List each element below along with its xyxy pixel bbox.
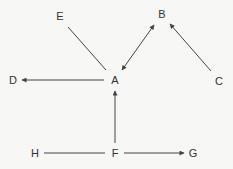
node-f: F	[112, 148, 119, 159]
edges-layer	[22, 24, 211, 153]
node-g: G	[189, 148, 198, 159]
edge-c-b	[170, 24, 211, 71]
node-e: E	[56, 11, 63, 22]
edge-e-a	[68, 27, 106, 70]
node-d: D	[9, 75, 17, 86]
node-h: H	[31, 148, 39, 159]
node-c: C	[215, 76, 223, 87]
node-a: A	[111, 75, 118, 86]
edge-a-b	[122, 25, 154, 70]
node-b: B	[158, 9, 165, 20]
